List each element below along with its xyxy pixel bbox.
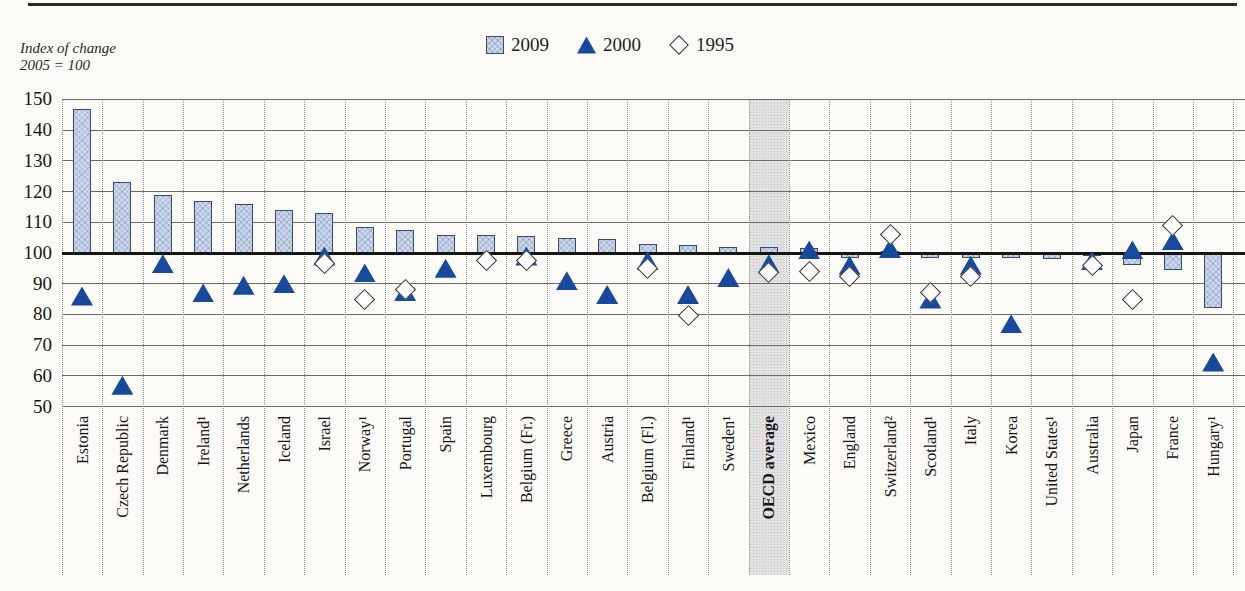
x-axis-label: Austria xyxy=(598,416,617,463)
marker-2000-triangle xyxy=(435,259,457,278)
marker-2000-triangle xyxy=(1121,240,1143,259)
column-separator xyxy=(547,99,548,575)
column-separator xyxy=(870,99,871,575)
gridline xyxy=(62,191,1245,192)
x-axis-label: Scotland¹ xyxy=(921,416,940,477)
y-tick-label: 60 xyxy=(6,365,52,387)
marker-2000-triangle xyxy=(596,285,618,304)
column-separator xyxy=(264,99,265,575)
marker-2000-triangle xyxy=(556,271,578,290)
column-separator xyxy=(506,99,507,575)
x-axis-label: Denmark xyxy=(153,416,172,476)
column-separator xyxy=(708,99,709,575)
x-axis-label: Italy xyxy=(961,416,980,445)
marker-1995-diamond xyxy=(1122,288,1143,309)
column-separator xyxy=(425,99,426,575)
x-axis-label: Israel xyxy=(315,416,334,452)
gridline xyxy=(62,160,1245,161)
column-separator xyxy=(1193,99,1194,575)
y-tick-label: 140 xyxy=(6,119,52,141)
y-tick-label: 150 xyxy=(6,88,52,110)
column-separator xyxy=(102,99,103,575)
bar-2009 xyxy=(1204,253,1222,308)
marker-2000-triangle xyxy=(233,276,255,295)
x-axis-label: Netherlands xyxy=(234,416,253,493)
x-axis-label: Iceland xyxy=(275,416,294,463)
marker-2000-triangle xyxy=(1202,353,1224,372)
marker-1995-diamond xyxy=(354,288,375,309)
y-tick-label: 130 xyxy=(6,150,52,172)
x-axis-label: Finland¹ xyxy=(679,416,698,470)
bar-2009 xyxy=(437,235,455,253)
marker-2000-triangle xyxy=(717,268,739,287)
marker-2000-triangle xyxy=(71,287,93,306)
x-axis-label: England xyxy=(840,416,859,469)
gridline xyxy=(62,130,1245,131)
x-axis-label: Switzerland² xyxy=(881,416,900,497)
column-separator xyxy=(789,99,790,575)
gridline xyxy=(62,375,1245,376)
marker-1995-diamond xyxy=(1162,215,1183,236)
x-axis-label: Portugal xyxy=(396,416,415,470)
marker-1995-diamond xyxy=(1081,255,1102,276)
column-separator xyxy=(627,99,628,575)
x-axis-label: Ireland¹ xyxy=(194,416,213,466)
column-separator xyxy=(1031,99,1032,575)
bar-2009 xyxy=(356,227,374,253)
bar-2009 xyxy=(235,204,253,253)
baseline-100 xyxy=(62,252,1245,255)
x-axis-label: OECD average xyxy=(759,416,778,520)
column-separator xyxy=(385,99,386,575)
gridline xyxy=(62,314,1245,315)
bar-2009 xyxy=(1164,253,1182,270)
marker-2000-triangle xyxy=(1000,314,1022,333)
x-axis-label: Estonia xyxy=(73,416,92,464)
column-separator xyxy=(304,99,305,575)
column-separator xyxy=(183,99,184,575)
bar-2009 xyxy=(396,230,414,253)
marker-1995-diamond xyxy=(879,224,900,245)
gridline xyxy=(62,345,1245,346)
column-separator xyxy=(910,99,911,575)
column-separator xyxy=(951,99,952,575)
marker-2000-triangle xyxy=(354,263,376,282)
column-separator xyxy=(1112,99,1113,575)
bar-2009 xyxy=(113,182,131,253)
gridline xyxy=(62,406,1245,407)
column-separator xyxy=(1153,99,1154,575)
column-separator xyxy=(345,99,346,575)
x-axis-label: Czech Republic xyxy=(113,416,132,518)
x-axis-label: United States¹ xyxy=(1042,416,1061,507)
y-tick-label: 100 xyxy=(6,242,52,264)
gridline xyxy=(62,99,1245,100)
x-axis-label: Japan xyxy=(1123,416,1142,452)
marker-2000-triangle xyxy=(111,376,133,395)
bar-2009 xyxy=(154,195,172,253)
plot-area: 1501401301201101009080706050EstoniaCzech… xyxy=(0,0,1245,591)
column-separator xyxy=(223,99,224,575)
y-tick-label: 90 xyxy=(6,273,52,295)
x-axis-label: Belgium (Fl.) xyxy=(638,416,657,503)
x-axis-label: Belgium (Fr.) xyxy=(517,416,536,503)
y-tick-label: 70 xyxy=(6,334,52,356)
column-separator xyxy=(991,99,992,575)
x-axis-label: Luxembourg xyxy=(477,416,496,498)
bar-2009 xyxy=(275,210,293,253)
column-separator xyxy=(668,99,669,575)
y-tick-label: 50 xyxy=(6,396,52,418)
x-axis-label: Spain xyxy=(436,416,455,452)
x-axis-label: France xyxy=(1163,416,1182,460)
column-separator xyxy=(143,99,144,575)
x-axis-label: Norway¹ xyxy=(355,416,374,472)
y-tick-label: 120 xyxy=(6,181,52,203)
x-axis-label: Australia xyxy=(1083,416,1102,475)
marker-1995-diamond xyxy=(314,253,335,274)
x-axis-label: Korea xyxy=(1002,416,1021,455)
column-separator xyxy=(466,99,467,575)
marker-1995-diamond xyxy=(799,261,820,282)
marker-2000-triangle xyxy=(677,285,699,304)
y-tick-label: 110 xyxy=(6,211,52,233)
column-separator xyxy=(587,99,588,575)
marker-1995-diamond xyxy=(920,282,941,303)
marker-2000-triangle xyxy=(152,254,174,273)
